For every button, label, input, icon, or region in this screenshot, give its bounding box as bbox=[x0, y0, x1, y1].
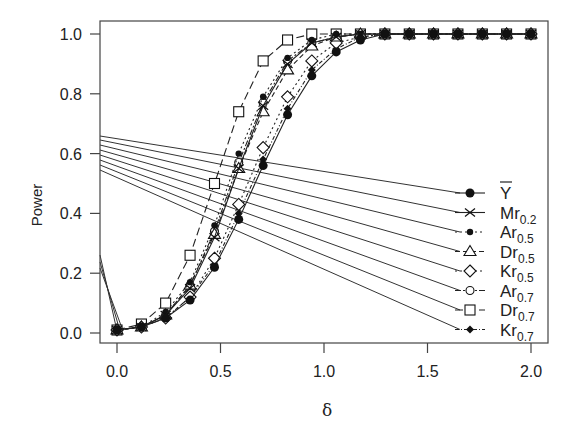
legend-label: Y bbox=[500, 184, 511, 203]
y-tick-label: 0.2 bbox=[60, 265, 82, 282]
plot-frame bbox=[100, 21, 548, 343]
legend-leader bbox=[100, 160, 460, 291]
x-tick-label: 2.0 bbox=[520, 363, 542, 380]
x-tick-label: 1.5 bbox=[416, 363, 438, 380]
legend-leader bbox=[100, 170, 460, 330]
y-tick-label: 0.4 bbox=[60, 205, 82, 222]
y-axis-title: Power bbox=[28, 184, 45, 227]
legend-leader-lines bbox=[100, 136, 460, 331]
y-tick-label: 0.0 bbox=[60, 325, 82, 342]
x-tick-label: 0.5 bbox=[209, 363, 231, 380]
legend-leader bbox=[100, 165, 460, 310]
legend-leader bbox=[100, 140, 460, 213]
x-tick-label: 1.0 bbox=[313, 363, 335, 380]
x-tick-label: 0.0 bbox=[106, 363, 128, 380]
y-tick-label: 0.8 bbox=[60, 86, 82, 103]
legend: YMr0.2Ar0.5Dr0.5Kr0.5Ar0.7Dr0.7Kr0.7 bbox=[455, 182, 537, 344]
x-axis: 0.00.51.01.52.0 bbox=[106, 343, 542, 380]
legend-entry: Y bbox=[455, 182, 512, 203]
legend-entry: Mr0.2 bbox=[455, 204, 537, 227]
drop-line bbox=[100, 268, 123, 331]
y-tick-label: 0.6 bbox=[60, 146, 82, 163]
y-tick-label: 1.0 bbox=[60, 26, 82, 43]
legend-leader bbox=[100, 155, 460, 271]
legend-leader bbox=[100, 150, 460, 252]
y-axis: 0.00.20.40.60.81.0 bbox=[60, 26, 100, 342]
legend-leader bbox=[100, 136, 460, 193]
legend-leader bbox=[100, 145, 460, 232]
power-curve-chart: 0.00.20.40.60.81.0 0.00.51.01.52.0 Power… bbox=[0, 0, 566, 431]
x-axis-title: δ bbox=[322, 400, 332, 420]
